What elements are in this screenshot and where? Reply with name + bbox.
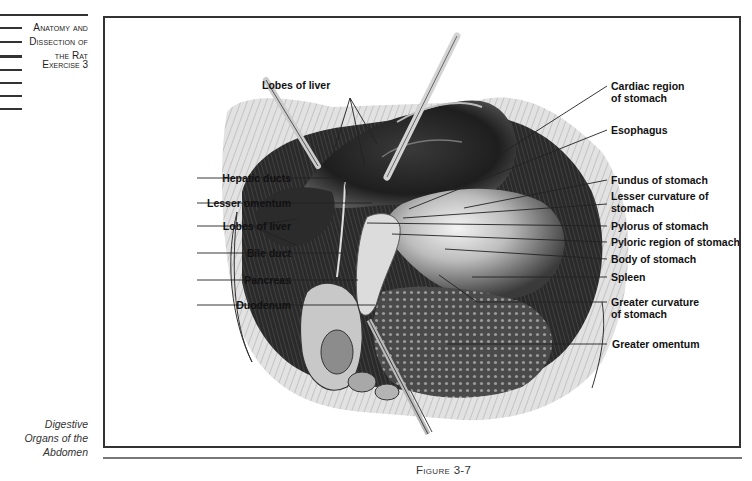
label-bile-duct: Bile duct	[247, 247, 291, 259]
label-lobes-of-liver-top: Lobes of liver	[262, 79, 330, 91]
figure-frame: Lobes of liver Hepatic ducts Lesser omen…	[103, 16, 741, 448]
margin-tick	[0, 82, 22, 84]
chapter-title-line: Anatomy and	[0, 21, 88, 35]
label-pylorus-of-stomach: Pylorus of stomach	[611, 220, 708, 232]
label-esophagus: Esophagus	[611, 124, 668, 136]
label-lesser-curvature-of-stomach: Lesser curvature of stomach	[611, 190, 708, 214]
label-lesser-omentum: Lesser omentum	[207, 197, 291, 209]
label-pyloric-region-of-stomach: Pyloric region of stomach	[611, 236, 740, 248]
label-line: Cardiac region	[611, 80, 685, 92]
label-line: Lesser curvature of	[611, 190, 708, 202]
label-body-of-stomach: Body of stomach	[611, 253, 696, 265]
margin-tick	[0, 95, 22, 97]
label-hepatic-ducts: Hepatic ducts	[222, 172, 291, 184]
label-lobes-of-liver-left: Lobes of liver	[223, 220, 291, 232]
label-duodenum: Duodenum	[236, 299, 291, 311]
label-line: stomach	[611, 202, 708, 214]
caption-rule	[103, 457, 742, 459]
label-spleen: Spleen	[611, 271, 645, 283]
section-caption-line: Organs of the	[0, 431, 88, 445]
chapter-title-line: Dissection of	[0, 35, 88, 49]
label-greater-omentum: Greater omentum	[612, 338, 700, 350]
label-line: of stomach	[611, 308, 699, 320]
margin-tick	[0, 108, 22, 110]
label-fundus-of-stomach: Fundus of stomach	[611, 174, 708, 186]
label-greater-curvature-of-stomach: Greater curvature of stomach	[611, 296, 699, 320]
label-cardiac-region-of-stomach: Cardiac region of stomach	[611, 80, 685, 104]
header-rule	[0, 14, 88, 16]
label-line: of stomach	[611, 92, 685, 104]
section-caption-line: Digestive	[0, 417, 88, 431]
figure-caption: Figure 3-7	[416, 464, 471, 476]
exercise-label: Exercise 3	[0, 59, 88, 70]
label-line: Greater curvature	[611, 296, 699, 308]
section-caption-line: Abdomen	[0, 445, 88, 459]
section-caption: Digestive Organs of the Abdomen	[0, 417, 88, 459]
chapter-title: Anatomy and Dissection of the Rat	[0, 21, 88, 63]
label-pancreas: Pancreas	[244, 274, 291, 286]
